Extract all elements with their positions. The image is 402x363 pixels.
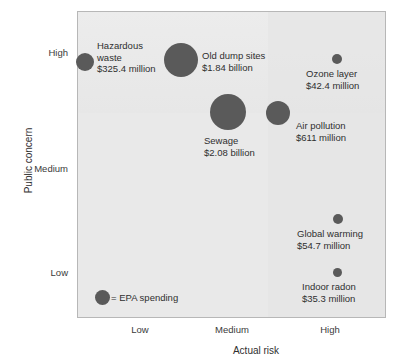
label-sewage-name: Sewage xyxy=(204,135,255,147)
label-sewage: Sewage $2.08 billion xyxy=(204,135,255,158)
x-tick-medium: Medium xyxy=(215,324,249,335)
legend-label: = EPA spending xyxy=(111,292,178,303)
label-global-warming-name: Global warming xyxy=(297,228,363,240)
bubble-sewage[interactable] xyxy=(210,94,246,130)
x-tick-low: Low xyxy=(131,324,148,335)
label-indoor-radon: Indoor radon $35.3 million xyxy=(302,281,356,304)
bubble-air-pollution[interactable] xyxy=(266,101,290,125)
bubble-indoor-radon[interactable] xyxy=(333,268,342,277)
y-tick-high: High xyxy=(48,47,68,58)
label-old-dump-sites: Old dump sites $1.84 billion xyxy=(202,50,265,73)
label-sewage-value: $2.08 billion xyxy=(204,147,255,159)
label-hazardous-waste-name: Hazardous xyxy=(97,40,156,52)
x-axis-title: Actual risk xyxy=(0,345,402,356)
y-tick-low: Low xyxy=(51,267,68,278)
label-indoor-radon-value: $35.3 million xyxy=(302,293,356,305)
label-hazardous-waste-name2: waste xyxy=(97,52,156,64)
label-global-warming: Global warming $54.7 million xyxy=(297,228,363,251)
label-air-pollution-name: Air pollution xyxy=(296,120,346,132)
bubble-ozone-layer[interactable] xyxy=(332,54,342,64)
bubble-old-dump-sites[interactable] xyxy=(164,43,198,77)
label-indoor-radon-name: Indoor radon xyxy=(302,281,356,293)
x-tick-high: High xyxy=(320,324,340,335)
label-hazardous-waste-value: $325.4 million xyxy=(97,63,156,75)
legend: = EPA spending xyxy=(95,290,178,305)
label-global-warming-value: $54.7 million xyxy=(297,240,363,252)
label-air-pollution-value: $611 million xyxy=(296,132,346,144)
label-ozone-layer-name: Ozone layer xyxy=(306,68,359,80)
label-ozone-layer: Ozone layer $42.4 million xyxy=(306,68,359,91)
label-ozone-layer-value: $42.4 million xyxy=(306,80,359,92)
legend-bubble-icon xyxy=(95,290,110,305)
y-tick-medium: Medium xyxy=(34,163,68,174)
bubble-chart: Public concern High Medium Low Hazardous… xyxy=(0,0,402,363)
label-hazardous-waste: Hazardous waste $325.4 million xyxy=(97,40,156,75)
y-axis-ticks: High Medium Low xyxy=(0,0,72,363)
label-old-dump-sites-name: Old dump sites xyxy=(202,50,265,62)
bubble-global-warming[interactable] xyxy=(333,214,343,224)
x-axis-title-text: Actual risk xyxy=(233,345,279,356)
bubble-hazardous-waste[interactable] xyxy=(76,53,94,71)
x-axis-ticks: Low Medium High xyxy=(0,324,402,340)
label-old-dump-sites-value: $1.84 billion xyxy=(202,62,265,74)
label-air-pollution: Air pollution $611 million xyxy=(296,120,346,143)
